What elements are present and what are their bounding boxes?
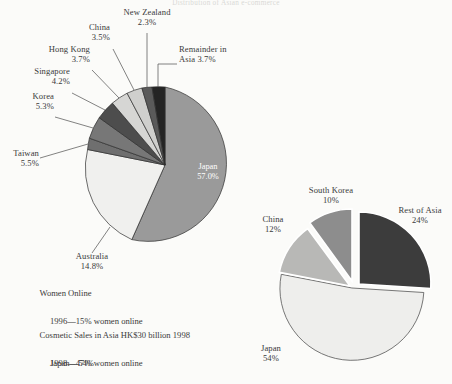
cosmetic-sales-note: Cosmetic Sales in Asia HK$30 billion 199…	[31, 315, 190, 384]
cosmetic-sales-heading: Cosmetic Sales in Asia HK$30 billion 199…	[40, 330, 190, 340]
sales-pie-label-rest-of-asia: Rest of Asia 24%	[388, 205, 452, 225]
sales-pie-label-china: China 12%	[250, 214, 296, 234]
sales-pie-slices	[279, 209, 431, 360]
sales-pie-label-japan: Japan 54%	[250, 343, 292, 363]
cosmetic-sales-japan: Japan—54%	[31, 357, 190, 371]
figure-canvas: Distribution of Asian e-commerce	[0, 0, 452, 384]
sales-pie-label-south-korea: South Korea 10%	[288, 185, 374, 205]
women-online-heading: Women Online	[39, 288, 91, 298]
